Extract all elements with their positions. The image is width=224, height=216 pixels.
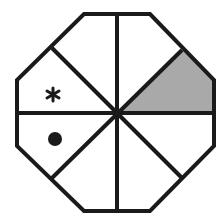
dot-icon: [48, 132, 62, 146]
asterisk-icon: [47, 88, 59, 101]
sector-right-upper-shaded: [117, 50, 214, 113]
octagon-svg: [0, 0, 224, 216]
divider-lines: [17, 14, 214, 211]
octagon-figure: [0, 0, 224, 216]
